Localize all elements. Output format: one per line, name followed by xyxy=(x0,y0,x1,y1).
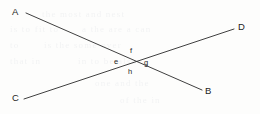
angle-label-f: f xyxy=(130,47,132,55)
angle-label-g: g xyxy=(144,59,148,67)
geometry-figure: the most and nestis to fit toa the are a… xyxy=(0,0,260,114)
line-ab xyxy=(26,13,202,90)
vertex-label-d: D xyxy=(238,22,245,32)
line-drawing-layer xyxy=(0,0,260,114)
vertex-label-b: B xyxy=(205,86,211,96)
angle-label-e: e xyxy=(114,58,118,66)
vertex-label-a: A xyxy=(12,7,18,17)
angle-label-h: h xyxy=(128,68,132,76)
vertex-label-c: C xyxy=(12,93,19,103)
line-cd xyxy=(24,29,234,99)
